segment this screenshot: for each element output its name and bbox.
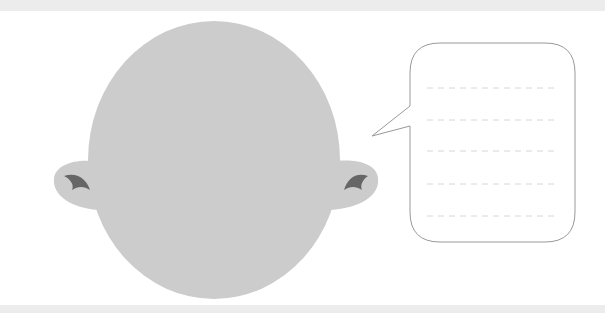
head-circle xyxy=(88,21,340,299)
illustration xyxy=(0,0,605,313)
speech-bubble xyxy=(372,43,575,242)
